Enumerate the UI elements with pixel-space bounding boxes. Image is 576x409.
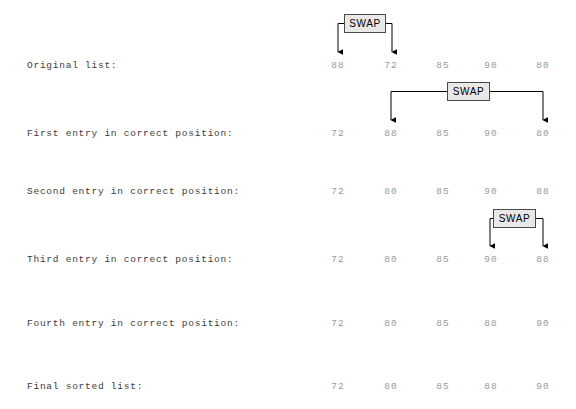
list-value: 88 xyxy=(484,318,498,329)
list-value: 80 xyxy=(536,60,550,71)
list-value: 88 xyxy=(384,128,398,139)
swap-box: SWAP xyxy=(344,14,386,33)
list-value: 88 xyxy=(484,381,498,392)
list-value: 72 xyxy=(331,128,345,139)
list-value: 85 xyxy=(436,318,450,329)
list-value: 80 xyxy=(536,128,550,139)
list-value: 80 xyxy=(384,254,398,265)
swap-arrow xyxy=(536,219,543,247)
swap-arrow xyxy=(490,92,543,121)
list-value: 90 xyxy=(484,60,498,71)
list-value: 88 xyxy=(536,186,550,197)
list-value: 85 xyxy=(436,60,450,71)
row-label-5: Final sorted list: xyxy=(27,381,143,392)
list-value: 85 xyxy=(436,381,450,392)
list-value: 85 xyxy=(436,128,450,139)
list-value: 90 xyxy=(484,254,498,265)
list-value: 90 xyxy=(484,186,498,197)
swap-arrow xyxy=(386,24,392,53)
list-value: 85 xyxy=(436,254,450,265)
swap-box: SWAP xyxy=(447,82,490,101)
swap-box: SWAP xyxy=(493,209,536,228)
swap-arrow xyxy=(391,92,447,121)
list-value: 88 xyxy=(536,254,550,265)
list-value: 90 xyxy=(484,128,498,139)
list-value: 80 xyxy=(384,381,398,392)
list-value: 90 xyxy=(536,318,550,329)
list-value: 88 xyxy=(331,60,345,71)
list-value: 72 xyxy=(331,254,345,265)
row-label-2: Second entry in correct position: xyxy=(27,186,240,197)
list-value: 90 xyxy=(536,381,550,392)
list-value: 80 xyxy=(384,186,398,197)
list-value: 72 xyxy=(331,186,345,197)
bubble-sort-diagram: SWAPSWAPSWAP Original list:8872859080Fir… xyxy=(0,0,576,409)
list-value: 85 xyxy=(436,186,450,197)
list-value: 80 xyxy=(384,318,398,329)
list-value: 72 xyxy=(384,60,398,71)
row-label-3: Third entry in correct position: xyxy=(27,254,233,265)
row-label-1: First entry in correct position: xyxy=(27,128,233,139)
list-value: 72 xyxy=(331,318,345,329)
list-value: 72 xyxy=(331,381,345,392)
row-label-0: Original list: xyxy=(27,60,117,71)
row-label-4: Fourth entry in correct position: xyxy=(27,318,240,329)
